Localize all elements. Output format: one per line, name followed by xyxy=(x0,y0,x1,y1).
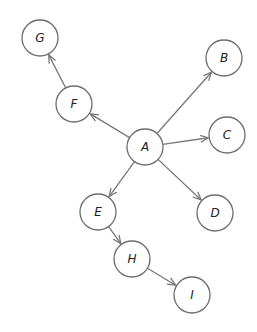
edge-a-e xyxy=(109,162,134,197)
edge-a-d xyxy=(158,159,201,200)
node-label: I xyxy=(190,288,194,302)
graph-diagram: ABCDEFGHI xyxy=(0,0,257,332)
node-label: G xyxy=(35,31,44,45)
node-label: A xyxy=(140,140,149,154)
node-b: B xyxy=(206,40,242,76)
node-label: C xyxy=(223,128,232,142)
node-h: H xyxy=(114,241,150,277)
edge-h-i xyxy=(147,268,175,285)
node-d: D xyxy=(197,195,233,231)
edge-a-b xyxy=(157,72,211,133)
edge-f-g xyxy=(49,55,66,88)
node-label: F xyxy=(71,97,79,111)
node-i: I xyxy=(174,277,210,313)
node-e: E xyxy=(80,194,116,230)
node-c: C xyxy=(209,117,245,153)
node-label: E xyxy=(94,205,102,219)
node-f: F xyxy=(56,86,92,122)
node-g: G xyxy=(22,20,58,56)
edge-a-c xyxy=(163,138,208,145)
edge-e-h xyxy=(109,227,121,244)
edge-a-f xyxy=(90,114,129,138)
node-label: H xyxy=(127,252,136,266)
nodes-layer: ABCDEFGHI xyxy=(22,20,245,313)
node-a: A xyxy=(127,129,163,165)
node-label: B xyxy=(220,51,228,65)
node-label: D xyxy=(210,206,219,220)
